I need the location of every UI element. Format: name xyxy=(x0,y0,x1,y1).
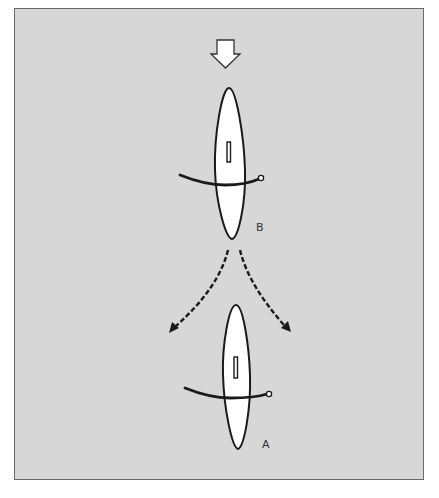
figure-a: A xyxy=(185,305,272,451)
thread-loop-a xyxy=(266,391,271,396)
slot-b xyxy=(227,142,231,162)
down-arrow-icon xyxy=(211,40,240,68)
thread-loop-b xyxy=(258,175,263,180)
figure-b: B xyxy=(180,88,264,239)
label-b: B xyxy=(256,221,264,234)
diagram-canvas: B A xyxy=(0,0,439,498)
label-a: A xyxy=(262,438,270,451)
dashed-arrow-left xyxy=(176,250,228,326)
slot-a xyxy=(234,357,238,378)
lens-b xyxy=(215,88,245,239)
dashed-arrow-right xyxy=(240,250,284,325)
